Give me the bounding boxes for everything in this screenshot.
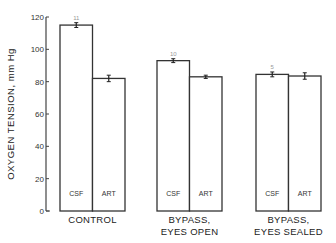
bars: 11CSFART10CSFART5CSFART [60,15,321,211]
bar-csf [157,61,190,211]
bar-label: ART [102,190,117,197]
bar-label: CSF [265,190,279,197]
y-axis-label: OXYGEN TENSION, mm Hg [5,48,16,180]
sample-size-label: 10 [170,51,177,57]
y-tick-label: 60 [35,110,44,119]
bar-csf [60,25,93,211]
group-label: EYES OPEN [161,226,219,237]
bar-label: ART [298,190,313,197]
group-label: BYPASS, [267,214,309,225]
group-label: BYPASS, [168,214,210,225]
group-label: EYES SEALED [254,226,323,237]
bar-label: CSF [166,190,180,197]
y-tick-label: 20 [35,175,44,184]
y-tick-label: 120 [31,13,45,22]
y-tick-label: 100 [31,45,45,54]
group-label: CONTROL [68,214,117,225]
y-tick-label: 40 [35,142,44,151]
bar-label: ART [199,190,214,197]
y-tick-label: 0 [40,207,45,216]
group-labels: CONTROLBYPASS,EYES OPENBYPASS,EYES SEALE… [68,214,323,237]
y-axis: 020406080100120 [31,13,50,216]
bar-chart: 020406080100120 11CSFART10CSFART5CSFART … [0,0,336,243]
sample-size-label: 5 [271,64,275,70]
y-tick-label: 80 [35,78,44,87]
bar-label: CSF [69,190,83,197]
sample-size-label: 11 [73,15,80,21]
